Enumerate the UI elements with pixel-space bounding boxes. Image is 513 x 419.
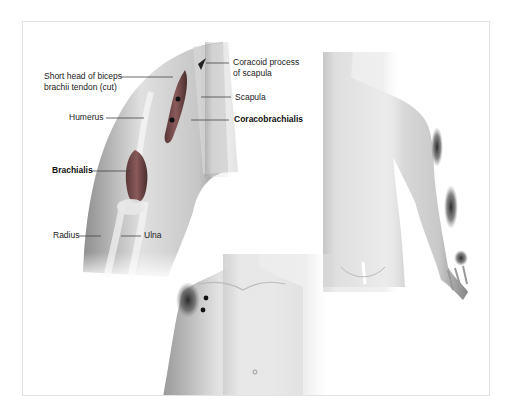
label-ulna: Ulna xyxy=(144,230,161,241)
label-coracobrachialis: Coracobrachialis xyxy=(234,114,303,125)
label-short-head-biceps-line2: brachii tendon (cut) xyxy=(44,82,117,93)
figure-frame: Coracoid process of scapula Scapula Cora… xyxy=(22,21,490,396)
label-brachialis: Brachialis xyxy=(52,165,93,176)
label-short-head-biceps: Short head of biceps xyxy=(44,71,122,82)
posterior-body-drawing xyxy=(323,52,468,300)
anterior-body-drawing xyxy=(163,254,333,396)
label-coracoid-process-line2: of scapula xyxy=(233,68,272,79)
label-humerus: Humerus xyxy=(69,112,103,123)
label-radius: Radius xyxy=(53,230,79,241)
label-coracoid-process: Coracoid process xyxy=(233,57,299,68)
label-scapula: Scapula xyxy=(235,92,266,103)
